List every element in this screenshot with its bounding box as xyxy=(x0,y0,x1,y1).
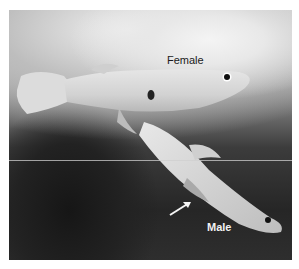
fish-photo: Female Male xyxy=(9,10,292,260)
fish-illustration xyxy=(9,10,292,260)
male-fish xyxy=(139,122,282,233)
arrow-icon xyxy=(170,202,191,215)
male-eye xyxy=(265,217,271,223)
gravid-spot xyxy=(148,90,155,100)
female-fish xyxy=(17,64,250,134)
female-label: Female xyxy=(167,54,204,66)
image-seam xyxy=(9,160,292,161)
female-eye xyxy=(224,74,230,80)
male-label: Male xyxy=(207,221,231,233)
